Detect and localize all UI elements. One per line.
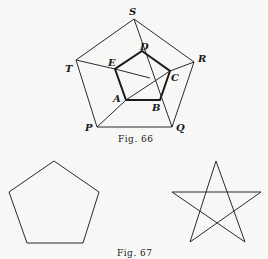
line-P-A	[97, 100, 126, 127]
label-R: R	[197, 53, 206, 64]
label-Q: Q	[176, 122, 185, 133]
label-C: C	[171, 72, 179, 83]
label-B: B	[151, 102, 160, 113]
label-A: A	[112, 93, 121, 104]
regular-pentagon	[9, 161, 99, 243]
label-T: T	[65, 63, 74, 74]
pentagram-star	[172, 161, 261, 242]
caption-fig66: Fig. 66	[118, 134, 154, 144]
line-R-C	[170, 62, 194, 71]
line-E-center	[115, 69, 150, 78]
figure-page: S R Q P T D C B A E Fig. 66 Fig. 67	[0, 0, 268, 259]
label-P: P	[84, 122, 93, 133]
label-E: E	[107, 57, 116, 68]
label-D: D	[139, 41, 149, 52]
label-S: S	[129, 6, 136, 17]
line-C-A	[126, 71, 170, 100]
inner-pentagon	[115, 51, 170, 100]
diagram-canvas: S R Q P T D C B A E Fig. 66 Fig. 67	[0, 0, 268, 259]
caption-fig67: Fig. 67	[117, 248, 153, 258]
